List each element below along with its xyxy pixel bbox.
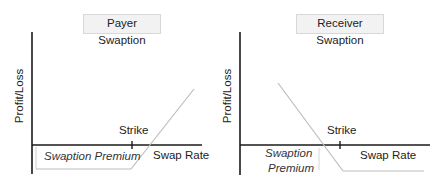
receiver-title: Receiver Swaption [296, 14, 384, 34]
payer-strike-label: Strike [119, 124, 148, 136]
receiver-x-axis-label: Swap Rate [360, 149, 416, 161]
payer-x-axis-label: Swap Rate [153, 149, 209, 161]
receiver-premium-label-line2: Premium [268, 162, 314, 174]
payer-title: Payer Swaption [83, 14, 161, 34]
payer-premium-label: Swaption Premium [44, 150, 141, 162]
receiver-premium-label-line1: Swaption [265, 147, 312, 159]
receiver-strike-label: Strike [327, 124, 356, 136]
receiver-y-axis-label: Profit/Loss [221, 66, 233, 126]
payer-y-axis-label: Profit/Loss [13, 66, 25, 126]
